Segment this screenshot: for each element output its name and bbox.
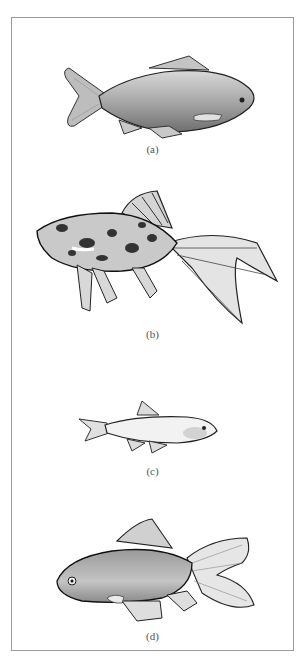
fish-c-illustration [77,393,227,458]
panel-b: (b) [12,173,293,348]
fish-a-illustration [54,38,264,148]
panel-d: (d) [12,493,293,652]
fish-b-illustration [32,183,282,328]
panel-label-c: (c) [12,465,293,477]
panel-label-b: (b) [12,328,293,340]
panel-label-d: (d) [12,630,293,642]
fish-d-illustration [42,513,262,628]
figure-frame: (a) (b) [11,17,294,651]
panel-c: (c) [12,373,293,493]
panel-a: (a) [12,18,293,173]
panel-label-a: (a) [12,143,293,155]
